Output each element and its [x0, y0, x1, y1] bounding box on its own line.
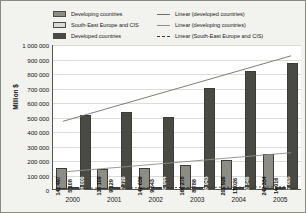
- legend-label-linear-developing: Linear (developing countries): [175, 22, 246, 28]
- x-axis-tick-label: 2003: [177, 196, 219, 203]
- y-axis-tick-label: 0: [46, 187, 49, 194]
- line-swatch-developed-icon: [157, 11, 170, 17]
- trendline: [63, 56, 291, 122]
- trendline-layer: [53, 45, 301, 189]
- y-axis-tick-label: 100 000: [27, 172, 49, 179]
- bar-swatch-developed-icon: [53, 33, 66, 39]
- legend-label-developed: Developed countries: [71, 33, 121, 39]
- line-swatch-developing-icon: [157, 22, 170, 28]
- y-axis-tick-label: 200 000: [27, 158, 49, 165]
- y-axis-tick-label: 900 000: [27, 56, 49, 63]
- legend-label-see-cis: South-East Europe and CIS: [71, 22, 139, 28]
- x-axis-tick-label: 2002: [135, 196, 177, 203]
- legend-column-trendlines: Linear (developed countries) Linear (dev…: [157, 9, 301, 40]
- y-axis-ticks: 1 000 000900 000800 000700 000600 000500…: [9, 45, 49, 190]
- x-axis-ticks: 200020012002200320042005: [52, 191, 301, 207]
- chart-legend: Developing countries South-East Europe a…: [53, 9, 301, 40]
- legend-item-linear-see-cis: Linear (South-East Europe and CIS): [157, 31, 301, 40]
- y-axis-tick-label: 600 000: [27, 100, 49, 107]
- legend-column-series: Developing countries South-East Europe a…: [53, 9, 157, 40]
- y-axis-tick-label: 800 000: [27, 71, 49, 78]
- legend-item-developing: Developing countries: [53, 9, 157, 18]
- x-axis-tick-label: 2000: [52, 196, 94, 203]
- line-swatch-see-cis-icon: [157, 33, 170, 39]
- y-axis-tick-label: 700 000: [27, 85, 49, 92]
- trendline: [63, 187, 291, 189]
- bar-swatch-see-cis-icon: [53, 22, 66, 28]
- y-axis-tick-label: 400 000: [27, 129, 49, 136]
- legend-item-see-cis: South-East Europe and CIS: [53, 20, 157, 29]
- trendline: [63, 153, 291, 172]
- legend-item-linear-developing: Linear (developing countries): [157, 20, 301, 29]
- y-axis-tick-label: 500 000: [27, 114, 49, 121]
- legend-label-developing: Developing countries: [71, 11, 122, 17]
- x-axis-tick-label: 2004: [218, 196, 260, 203]
- legend-label-linear-developed: Linear (developed countries): [175, 11, 245, 17]
- y-axis-tick-label: 300 000: [27, 143, 49, 150]
- legend-item-developed: Developed countries: [53, 31, 157, 40]
- plot-area: 141 4975 108508 000135 1099 129527 72614…: [52, 45, 301, 190]
- chart-container: Developing countries South-East Europe a…: [0, 0, 306, 213]
- x-axis-tick-label: 2001: [94, 196, 136, 203]
- bar-swatch-developing-icon: [53, 11, 66, 17]
- legend-label-linear-see-cis: Linear (South-East Europe and CIS): [175, 33, 263, 39]
- x-axis-tick-label: 2005: [260, 196, 302, 203]
- legend-item-linear-developed: Linear (developed countries): [157, 9, 301, 18]
- y-axis-tick-label: 1 000 000: [22, 42, 49, 49]
